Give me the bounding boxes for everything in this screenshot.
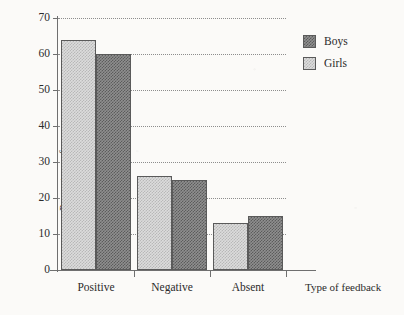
chart-legend: BoysGirls	[303, 33, 348, 77]
chart-figure: Percentage of responses 010203040506070 …	[0, 0, 404, 315]
bar-absent-boys[interactable]	[248, 216, 283, 270]
bar-positive-girls[interactable]	[61, 40, 96, 270]
legend-label: Girls	[324, 58, 347, 70]
bar-positive-boys[interactable]	[96, 54, 131, 270]
x-axis-separator-tick	[134, 270, 135, 277]
legend-item-boys[interactable]: Boys	[303, 33, 348, 50]
bar-negative-boys[interactable]	[172, 180, 207, 270]
y-tick-label: 60	[39, 48, 51, 60]
y-tick-label: 40	[39, 120, 51, 132]
legend-swatch-boys-icon	[303, 35, 316, 48]
bar-negative-girls[interactable]	[137, 176, 172, 270]
x-axis-separator-tick	[286, 270, 287, 277]
x-tick-label-negative: Negative	[151, 282, 193, 294]
y-tick-label: 10	[39, 228, 51, 240]
gridline	[58, 18, 286, 19]
legend-item-girls[interactable]: Girls	[303, 55, 348, 72]
bar-absent-girls[interactable]	[213, 223, 248, 270]
plot-area: 010203040506070 PositiveNegativeAbsent	[58, 18, 286, 270]
x-axis-separator-tick	[210, 270, 211, 277]
y-tick-label: 70	[39, 12, 51, 24]
x-tick-label-absent: Absent	[232, 282, 265, 294]
x-axis-title: Type of feedback	[305, 281, 381, 293]
y-axis-line	[57, 16, 58, 272]
x-tick-label-positive: Positive	[77, 282, 114, 294]
y-tick-label: 30	[39, 156, 51, 168]
y-tick-label: 50	[39, 84, 51, 96]
legend-label: Boys	[324, 36, 348, 48]
legend-swatch-girls-icon	[303, 57, 316, 70]
y-tick-label: 20	[39, 192, 51, 204]
x-axis-line	[50, 270, 316, 271]
